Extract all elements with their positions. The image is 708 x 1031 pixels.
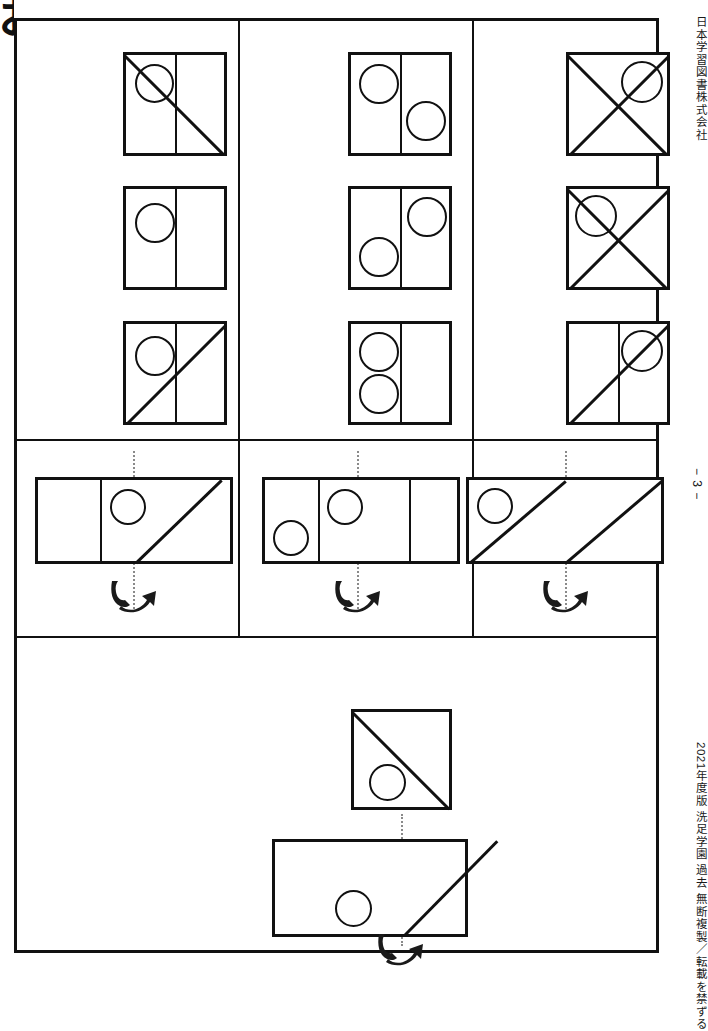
divider-vertical — [400, 324, 402, 422]
circle-lower-left — [359, 237, 399, 277]
question-cell-1 — [17, 439, 238, 636]
figure-example-result — [351, 709, 452, 810]
figure-c2r2 — [348, 186, 452, 290]
worked-example-region — [17, 636, 662, 956]
fold-arrow-q3 — [541, 575, 593, 613]
question-cell-2 — [238, 439, 472, 636]
copyright-notice: 2021年度版 洗足学園 過去 無断複製／転載を禁ずる — [695, 742, 707, 1031]
circle-upper-left — [359, 64, 399, 104]
circle-panel-1-lower-right — [335, 890, 372, 927]
circle-upper-left — [135, 64, 174, 103]
diagonal-right-half-bl-tr — [403, 840, 498, 937]
fold-arrow-q1 — [109, 575, 161, 613]
figure-q3 — [466, 477, 664, 564]
circle-lower-left — [359, 374, 399, 414]
divider-vertical — [400, 189, 402, 287]
publisher-label: 日本学習図書株式会社 — [695, 16, 707, 141]
answer-column-2 — [238, 21, 472, 439]
circle-lower-right — [406, 101, 446, 141]
divider-vertical-1 — [318, 480, 320, 561]
worksheet-frame — [14, 18, 659, 953]
figure-c2r1 — [348, 52, 452, 156]
divider-vertical — [400, 55, 402, 153]
diagonal-bl-tr — [135, 479, 223, 564]
circle-upper-right — [621, 61, 663, 103]
fold-arrow-q2 — [333, 575, 385, 613]
figure-q2 — [262, 477, 460, 564]
circle-panel-2-upper — [327, 489, 363, 525]
circle-lower-left — [369, 764, 406, 801]
circle-upper-left — [135, 203, 175, 243]
circle-upper-left — [575, 195, 617, 237]
circle-upper-right — [621, 330, 663, 372]
page-number: − 3 − — [690, 468, 704, 500]
circle-upper-left — [359, 332, 399, 372]
figure-q1 — [35, 477, 233, 564]
diagonal-tl-br — [352, 712, 450, 810]
circle-upper-right — [407, 197, 447, 237]
divider-vertical-2 — [409, 480, 411, 561]
circle-panel-2-upper — [110, 489, 146, 525]
answer-column-1 — [17, 21, 238, 439]
figure-c3r3 — [566, 321, 670, 425]
fold-arrow-example — [376, 928, 428, 966]
figure-c1r2 — [123, 186, 227, 290]
figure-c3r1 — [566, 52, 670, 156]
divider-vertical — [175, 189, 177, 287]
figure-c1r3 — [123, 321, 227, 425]
circle-panel-1-lower — [273, 520, 309, 556]
figure-c3r2 — [566, 186, 670, 290]
circle-upper-left — [135, 336, 175, 376]
answer-column-3 — [472, 21, 662, 439]
diagonal-right-half-bl-tr — [565, 480, 663, 564]
figure-c1r1 — [123, 52, 227, 156]
divider-vertical-1 — [100, 480, 102, 561]
figure-c2r3 — [348, 321, 452, 425]
corner-mark-glyph: お — [0, 0, 14, 46]
circle-panel-1-upper-left — [477, 488, 513, 524]
figure-example-source — [272, 839, 468, 937]
question-cell-3 — [472, 439, 662, 636]
